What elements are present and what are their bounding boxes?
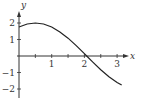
y-tick-label: −2 (2, 84, 15, 94)
x-tick-label: 3 (114, 59, 120, 69)
x-tick-label: 2 (82, 59, 88, 69)
axes (17, 11, 129, 98)
line-plot: 12321−1−2 x y (0, 0, 141, 103)
data-curve (19, 23, 122, 85)
y-tick-label: −1 (2, 68, 15, 78)
chart: 12321−1−2 x y (0, 0, 141, 103)
y-tick-label: 2 (9, 18, 15, 28)
y-tick-label: 1 (9, 35, 15, 45)
x-axis-label: x (130, 51, 135, 61)
y-axis-label: y (20, 0, 27, 10)
y-axis-arrow-icon (17, 11, 21, 17)
x-tick-label: 1 (49, 59, 55, 69)
x-axis-arrow-icon (123, 54, 129, 58)
